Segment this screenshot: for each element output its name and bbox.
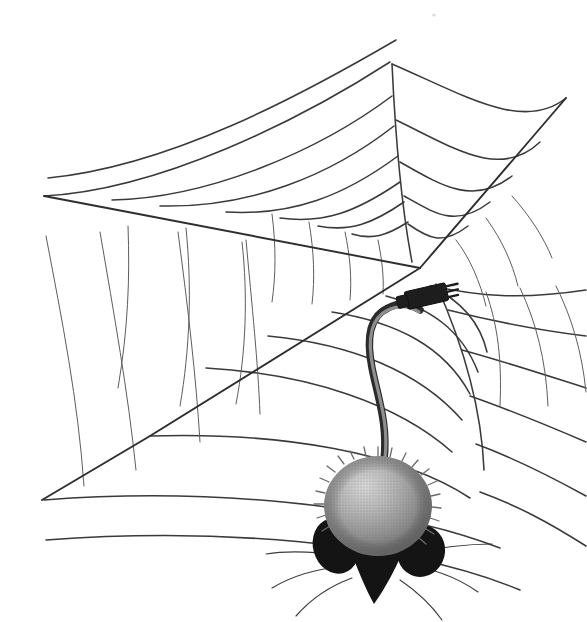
- illustration-background: [0, 0, 587, 622]
- scan-speck: [432, 13, 435, 16]
- spider-web-mouse-illustration: Computer mouse caught in a spider web: [0, 0, 587, 622]
- connector-collar: [396, 294, 409, 308]
- illustration-canvas: Computer mouse caught in a spider web: [0, 0, 587, 622]
